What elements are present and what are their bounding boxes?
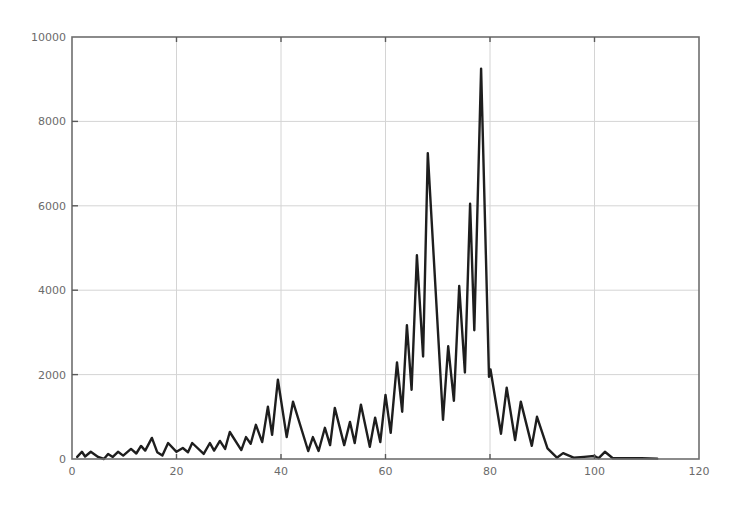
- y-tick-label: 8000: [38, 115, 66, 128]
- y-tick-label: 6000: [38, 200, 66, 213]
- series-line: [77, 69, 657, 459]
- x-tick-label: 40: [274, 465, 288, 478]
- x-axis-tick-labels: 020406080100120: [69, 465, 710, 478]
- x-tick-label: 60: [379, 465, 393, 478]
- x-tick-label: 80: [483, 465, 497, 478]
- x-tick-label: 20: [170, 465, 184, 478]
- y-tick-label: 0: [59, 453, 66, 466]
- y-tick-label: 10000: [31, 31, 66, 44]
- y-axis-tick-labels: 0200040006000800010000: [31, 31, 66, 466]
- x-tick-label: 120: [689, 465, 710, 478]
- x-tick-label: 100: [584, 465, 605, 478]
- x-tick-label: 0: [69, 465, 76, 478]
- y-tick-label: 2000: [38, 369, 66, 382]
- series-layer: [77, 69, 657, 459]
- line-chart: 020406080100120 0200040006000800010000: [0, 0, 732, 506]
- y-tick-label: 4000: [38, 284, 66, 297]
- axis-ticks: [72, 37, 595, 459]
